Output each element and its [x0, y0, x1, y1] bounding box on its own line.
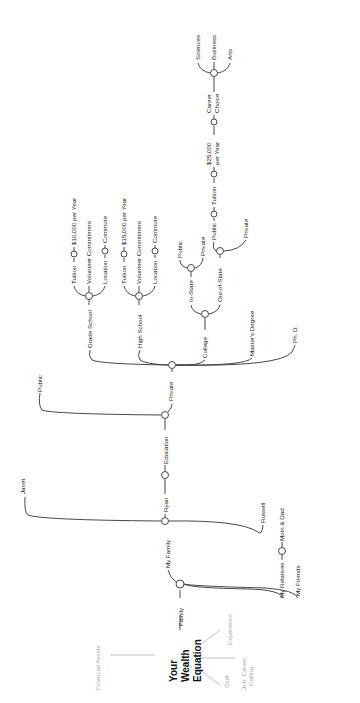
- arts-label: Arts: [226, 49, 233, 60]
- college-tuition-cost-2: per Year: [213, 142, 220, 165]
- family-branch: Family My Family My Relatives Mom & Dad …: [19, 436, 301, 630]
- college-label: College: [201, 336, 208, 358]
- janet-label: Janet: [19, 479, 26, 494]
- gs-tuition-label: Tuition: [70, 265, 77, 284]
- business-label: Business: [210, 35, 217, 60]
- financial-assets-label: Financial Assets: [94, 645, 101, 690]
- hs-location-label: Location: [151, 260, 158, 284]
- stuff-label: Stuff: [223, 675, 230, 688]
- public-label: Public: [36, 375, 43, 392]
- private-label: Private: [167, 381, 174, 401]
- hs-commute-label: Commute: [151, 216, 158, 243]
- hs-volunteer-label: Volunteer Commitment: [135, 221, 142, 284]
- masters-label: Master's Degree: [248, 310, 255, 356]
- gs-tuition-cost-label: $10,000 per Year: [70, 198, 77, 245]
- title-line-2: Wealth: [180, 649, 191, 682]
- career-choice-2: Choice: [213, 93, 220, 113]
- my-relatives-label: My Relatives: [278, 563, 285, 598]
- russell-label: Russell: [259, 503, 266, 523]
- gs-location-label: Location: [101, 260, 108, 284]
- hs-tuition-cost-label: $15,000 per Year: [120, 198, 127, 245]
- oos-public-label: Public: [210, 223, 217, 240]
- in-state-private-label: Private: [199, 236, 206, 256]
- phd-label: Ph. D.: [291, 326, 298, 343]
- mom-dad-label: Mom & Dad: [278, 508, 285, 541]
- sciences-label: Sciences: [194, 35, 201, 60]
- college-tuition-label: Tuition: [210, 186, 217, 205]
- grade-school-label: Grade School: [86, 310, 93, 348]
- my-family-label: My Family: [164, 539, 171, 568]
- ryan-label: Ryan: [162, 497, 169, 512]
- gs-commute-label: Commute: [101, 216, 108, 243]
- family-label: Family: [177, 607, 184, 626]
- job-label-2: Calling: [247, 667, 254, 686]
- my-friends-label: My Friends: [294, 565, 301, 596]
- title-line-3: Equation: [192, 639, 203, 682]
- in-state-label: In-State: [187, 280, 194, 302]
- education-label: Education: [162, 436, 169, 464]
- experience-label: Experience: [226, 613, 233, 645]
- oos-private-label: Private: [242, 218, 249, 238]
- college-tuition-cost-1: $25,000: [205, 142, 212, 165]
- hs-tuition-label: Tuition: [120, 265, 127, 284]
- wealth-equation-diagram: Financial Assets Stuff Experience Job, C…: [0, 0, 360, 703]
- in-state-public-label: Public: [176, 241, 183, 258]
- gs-volunteer-label: Volunteer Commitment: [85, 221, 92, 284]
- job-label-1: Job, Career,: [240, 656, 247, 690]
- education-branch: Public Private Grade School High School …: [36, 35, 298, 430]
- title: Your Wealth Equation: [168, 639, 203, 682]
- career-choice-1: Career: [205, 94, 212, 113]
- out-of-state-label: Out-of-State: [216, 268, 223, 302]
- high-school-label: High School: [136, 315, 143, 348]
- title-line-1: Your: [168, 660, 179, 682]
